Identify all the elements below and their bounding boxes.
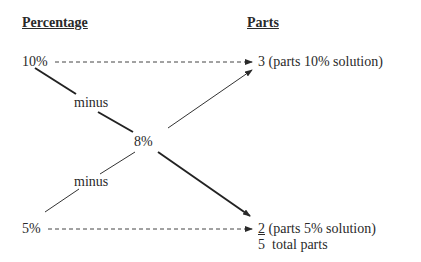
parts-top-value: 3 (258, 54, 265, 69)
minus-label-top: minus (74, 96, 108, 110)
parts-top: 3 (parts 10% solution) (258, 55, 383, 69)
target-percentage: 8% (134, 135, 153, 149)
parts-top-label: (parts 10% solution) (269, 54, 383, 69)
parts-total-label: total parts (272, 237, 328, 252)
thin-arrow-diagonal (168, 70, 252, 128)
parts-total: 5 total parts (258, 238, 328, 252)
parts-bottom-value: 2 (258, 221, 265, 236)
minus-label-bottom: minus (74, 175, 108, 189)
parts-header: Parts (247, 16, 279, 30)
percentage-header: Percentage (22, 16, 88, 30)
parts-bottom-label: (parts 5% solution) (269, 221, 376, 236)
parts-bottom: 2 (parts 5% solution) (258, 222, 376, 236)
percentage-high: 10% (22, 55, 48, 69)
percentage-low: 5% (22, 222, 41, 236)
thick-arrow-diagonal (158, 152, 250, 216)
parts-total-value: 5 (258, 237, 265, 252)
